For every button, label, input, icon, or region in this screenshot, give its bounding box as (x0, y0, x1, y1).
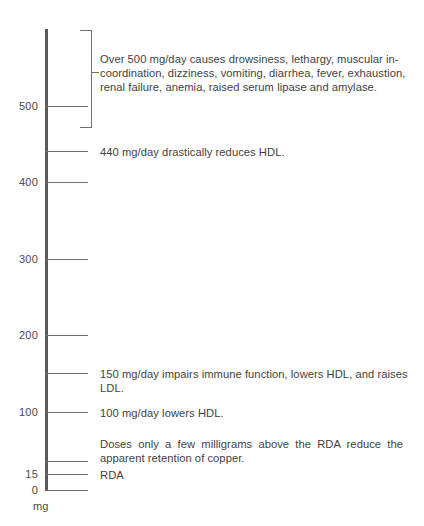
tick-label-0: 0 (0, 485, 38, 496)
tick-label-300: 300 (0, 254, 38, 265)
tick-rule-200 (46, 335, 88, 336)
tick-rule-0 (46, 490, 88, 491)
tick-rule-20 (46, 461, 88, 462)
annotation-over-500-line-1: Over 500 mg/day causes drowsiness, letha… (100, 52, 415, 66)
tick-label-200: 200 (0, 330, 38, 341)
annotation-rda: RDA (100, 468, 220, 482)
axis-unit-label: mg (33, 501, 48, 512)
tick-rule-300 (46, 259, 88, 260)
annotation-copper-retention: Doses only a few milligrams above the RD… (100, 437, 403, 465)
annotation-over-500-line-2: coordination, dizziness, vomiting, diarr… (100, 66, 415, 80)
tick-rule-400 (46, 182, 88, 183)
tick-rule-150 (46, 373, 88, 374)
annotation-150: 150 mg/day impairs immune function, lowe… (100, 367, 420, 395)
tick-rule-440 (46, 151, 88, 152)
tick-label-500: 500 (0, 101, 38, 112)
tick-label-400: 400 (0, 177, 38, 188)
scale-axis-line (45, 29, 48, 491)
tick-label-100: 100 (0, 407, 38, 418)
annotation-over-500-line-3: renal failure, anemia, raised serum lipa… (100, 80, 415, 94)
tick-rule-15 (46, 474, 88, 475)
annotation-440: 440 mg/day drastically reduces HDL. (100, 145, 410, 159)
annotation-100: 100 mg/day lowers HDL. (100, 406, 410, 420)
annotation-over-500: Over 500 mg/day causes drowsiness, letha… (100, 52, 415, 94)
tick-rule-100 (46, 412, 88, 413)
range-bracket-over-500 (80, 30, 92, 128)
dose-scale-figure: 500 400 300 200 100 15 0 mg Over 500 mg/… (0, 0, 424, 526)
range-bracket-stem (91, 72, 99, 73)
annotation-copper-retention-line-1: Doses only a few milligrams above the RD… (100, 437, 403, 451)
tick-label-15: 15 (0, 469, 38, 480)
annotation-copper-retention-line-2: apparent retention of copper. (100, 451, 403, 465)
